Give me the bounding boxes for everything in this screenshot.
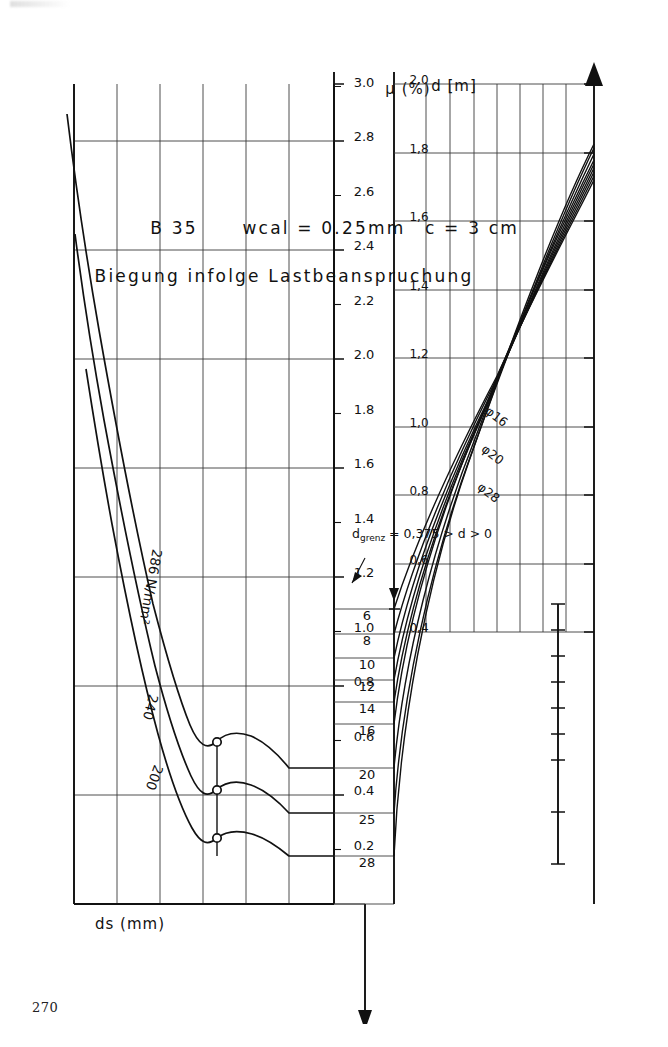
mu-tick-label: 2.6	[354, 183, 375, 198]
knee-marker	[213, 785, 221, 793]
caption-wcal: wcal = 0.25mm	[242, 218, 405, 238]
curve-label-286: 286 N/mm²	[136, 547, 165, 625]
curve-200	[86, 369, 334, 856]
d-tick-label: 1,8	[409, 142, 428, 156]
bar-label-8: 8	[363, 633, 371, 648]
mu-tick-label: 3.0	[354, 74, 375, 89]
mu-tick-label: 1.8	[354, 401, 375, 416]
figure-caption: Biegung infolge Lastbeanspruchung B 35 w…	[95, 218, 520, 286]
ds-axis-title: ds (mm)	[95, 915, 165, 933]
lower-horizontal-gridlines	[426, 84, 566, 632]
mu-tick-label: 2.2	[354, 292, 375, 307]
mu-axis-ticks	[334, 84, 344, 850]
nomogram-svg: 0.2 0.4 0.6 0.8 1.0 1.2 1.4 1.6 1.8 2.0 …	[34, 24, 634, 1024]
bar-label-14: 14	[359, 701, 376, 716]
d-tick-label: 2,0	[409, 73, 428, 87]
bar-label-25: 25	[359, 812, 376, 827]
bar-label-6: 6	[363, 608, 371, 623]
caption-b35: B 35	[150, 218, 198, 238]
d-tick-label: 1,2	[409, 347, 428, 361]
knee-marker	[213, 833, 221, 841]
curve-label-240: 240	[140, 692, 162, 721]
bar-size-ladder: 28 25 20 16 14 12 10 8 6	[334, 72, 394, 1024]
mu-tick-label: 1.4	[354, 510, 375, 525]
lower-panel: 0,4 0,6 0,8 1,0 1,2 1,4 1,6 1,8 2,0 d [m…	[394, 62, 603, 904]
rotated-figure: 0.2 0.4 0.6 0.8 1.0 1.2 1.4 1.6 1.8 2.0 …	[34, 24, 634, 1024]
phi-label-20: φ20	[479, 441, 507, 468]
bar-label-10: 10	[359, 657, 376, 672]
bar-label-16: 16	[359, 723, 376, 738]
bar-label-28: 28	[359, 855, 376, 870]
phi-curve-6	[394, 180, 594, 609]
upper-frame	[74, 84, 334, 904]
mu-tick-label: 0.4	[354, 783, 375, 798]
mu-tick-label: 1.6	[354, 456, 375, 471]
ladder-arrow	[358, 904, 372, 1024]
d-axis-arrow	[585, 62, 603, 86]
lower-left-comb	[551, 604, 565, 864]
caption-line-1: Biegung infolge Lastbeanspruchung	[95, 266, 474, 286]
bar-label-12: 12	[359, 679, 376, 694]
phi-curve-25	[394, 148, 594, 813]
mu-tick-label: 2.0	[354, 347, 375, 362]
caption-cover: c = 3 cm	[425, 218, 519, 238]
knee-marker	[213, 737, 221, 745]
phi-label-28: φ28	[475, 479, 503, 506]
curve-240	[75, 234, 334, 813]
mu-tick-label: 2.8	[354, 129, 375, 144]
mu-tick-label: 0.2	[354, 837, 375, 852]
figure-container: 0.2 0.4 0.6 0.8 1.0 1.2 1.4 1.6 1.8 2.0 …	[0, 0, 668, 1047]
d-axis-title: d [m]	[431, 77, 477, 95]
bar-label-20: 20	[359, 767, 376, 782]
phi-curve-16	[394, 160, 594, 724]
page-root: 270	[0, 0, 668, 1047]
d-tick-label: 0,8	[409, 484, 428, 498]
curve-label-200: 200	[143, 762, 167, 792]
d-tick-label: 1,0	[409, 416, 428, 430]
upper-panel: 0.2 0.4 0.6 0.8 1.0 1.2 1.4 1.6 1.8 2.0 …	[67, 72, 431, 933]
mu-tick-label: 2.4	[354, 238, 375, 253]
dgrenz-subscript: grenz	[360, 533, 385, 543]
